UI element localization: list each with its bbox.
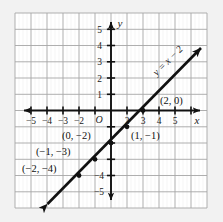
origin-label: O xyxy=(95,114,102,125)
x-axis-label: x xyxy=(194,114,200,126)
x-tick-label-3: 3 xyxy=(141,116,146,126)
y-tick-label-5: 5 xyxy=(97,25,102,35)
point-0-minus2 xyxy=(109,141,114,146)
x-tick-label-minus4: −4 xyxy=(42,116,52,126)
point-label-0-minus2: (0, −2) xyxy=(62,130,91,142)
y-tick-label-3: 3 xyxy=(97,57,102,67)
coordinate-plane-svg: −5 −4 −3 −2 2 3 4 5 5 4 3 2 1 −4 −5 O x … xyxy=(0,0,223,222)
point-minus2-minus4 xyxy=(77,173,82,178)
point-label-minus2-minus4: (−2, −4) xyxy=(22,163,57,175)
x-tick-label-minus3: −3 xyxy=(58,116,68,126)
x-tick-label-minus2: −2 xyxy=(74,116,84,126)
y-tick-label-minus5: −5 xyxy=(94,187,104,197)
y-axis-label: y xyxy=(117,17,123,29)
coordinate-graph-figure: −5 −4 −3 −2 2 3 4 5 5 4 3 2 1 −4 −5 O x … xyxy=(0,0,223,222)
x-tick-label-minus5: −5 xyxy=(26,116,36,126)
point-2-0 xyxy=(141,108,146,113)
y-tick-label-2: 2 xyxy=(97,74,102,84)
point-label-2-0: (2, 0) xyxy=(160,95,183,107)
y-tick-label-4: 4 xyxy=(97,41,102,51)
point-label-minus1-minus3: (−1, −3) xyxy=(36,146,71,158)
y-tick-label-minus4: −4 xyxy=(94,171,104,181)
point-minus1-minus3 xyxy=(93,157,98,162)
x-tick-label-5: 5 xyxy=(173,116,178,126)
x-tick-label-2: 2 xyxy=(125,116,130,126)
y-tick-label-1: 1 xyxy=(97,90,102,100)
point-label-1-minus1: (1, −1) xyxy=(131,130,160,142)
x-tick-label-4: 4 xyxy=(157,116,162,126)
